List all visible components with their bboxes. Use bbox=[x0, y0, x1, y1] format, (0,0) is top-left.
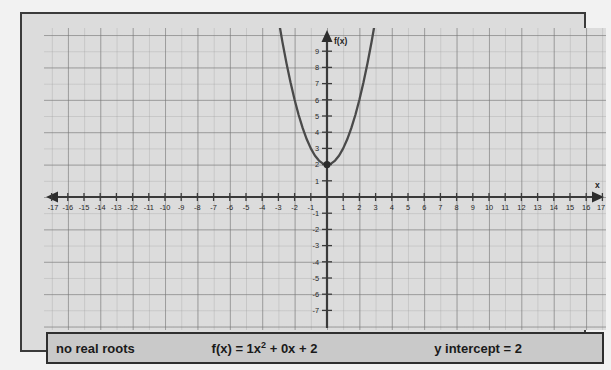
x-tick-label: 9 bbox=[471, 203, 475, 212]
y-tick-label: 6 bbox=[315, 96, 319, 105]
x-tick-label: 2 bbox=[357, 203, 361, 212]
x-tick-label: -10 bbox=[160, 203, 171, 212]
y-tick-label: -7 bbox=[312, 306, 319, 315]
y-axis bbox=[322, 30, 333, 328]
status-equation-label: f(x) = 1x2 + 0x + 2 bbox=[135, 340, 434, 356]
x-tick-label: 5 bbox=[406, 203, 410, 212]
x-axis-label: x bbox=[595, 180, 600, 190]
status-roots-label: no real roots bbox=[48, 341, 135, 356]
y-tick-label: 8 bbox=[315, 63, 319, 72]
graph-plot-area[interactable]: -17 -16 -15 -14 -13 -12 -11 -10 -9 -8 -7… bbox=[44, 28, 606, 330]
x-tick-label: -11 bbox=[144, 203, 154, 212]
x-tick-label: 17 bbox=[597, 203, 605, 212]
x-tick-label: 10 bbox=[485, 203, 493, 212]
status-bar: no real roots f(x) = 1x2 + 0x + 2 y inte… bbox=[46, 332, 604, 364]
x-tick-label: -16 bbox=[62, 203, 73, 212]
y-axis-label: f(x) bbox=[334, 36, 347, 46]
x-tick-label: 6 bbox=[422, 203, 426, 212]
x-tick-label: 11 bbox=[501, 203, 509, 212]
coordinate-plane-svg: -17 -16 -15 -14 -13 -12 -11 -10 -9 -8 -7… bbox=[44, 28, 606, 330]
x-tick-label: -6 bbox=[227, 203, 234, 212]
y-tick-label: -6 bbox=[312, 290, 319, 299]
x-tick-label: 4 bbox=[390, 203, 394, 212]
x-tick-label: -8 bbox=[194, 203, 201, 212]
equation-suffix: + 0x + 2 bbox=[266, 341, 317, 356]
y-tick-label: 4 bbox=[315, 128, 319, 137]
y-axis-top-arrow bbox=[322, 30, 333, 42]
y-tick-label: 5 bbox=[315, 112, 319, 121]
x-tick-label: -3 bbox=[275, 203, 282, 212]
x-tick-label: 15 bbox=[566, 203, 574, 212]
x-tick-label: 12 bbox=[517, 203, 525, 212]
y-tick-label: -4 bbox=[312, 258, 319, 267]
x-tick-label: 13 bbox=[533, 203, 541, 212]
x-tick-label: -14 bbox=[95, 203, 106, 212]
y-tick-label: -5 bbox=[312, 274, 319, 283]
y-tick-label: 1 bbox=[315, 177, 319, 186]
y-tick-label: 9 bbox=[315, 47, 319, 56]
x-tick-label: 16 bbox=[582, 203, 590, 212]
x-tick-label: -7 bbox=[210, 203, 217, 212]
y-tick-label: 2 bbox=[315, 160, 319, 169]
status-y-intercept-label: y intercept = 2 bbox=[434, 341, 602, 356]
x-tick-label: -17 bbox=[48, 203, 59, 212]
equation-prefix: f(x) = 1x bbox=[212, 341, 262, 356]
page-background: -17 -16 -15 -14 -13 -12 -11 -10 -9 -8 -7… bbox=[0, 0, 611, 370]
x-tick-label: -13 bbox=[111, 203, 122, 212]
y-tick-label: -1 bbox=[312, 209, 319, 218]
x-axis bbox=[46, 192, 604, 203]
vertex-point-marker[interactable] bbox=[323, 161, 330, 168]
y-tick-label: 7 bbox=[315, 79, 319, 88]
x-tick-label: 1 bbox=[341, 203, 345, 212]
x-tick-label: 7 bbox=[438, 203, 442, 212]
graph-applet-frame: -17 -16 -15 -14 -13 -12 -11 -10 -9 -8 -7… bbox=[20, 12, 586, 352]
x-tick-label: -15 bbox=[79, 203, 90, 212]
x-tick-label: -5 bbox=[243, 203, 250, 212]
x-tick-label: 14 bbox=[550, 203, 558, 212]
x-tick-label: -2 bbox=[291, 203, 298, 212]
y-tick-label: 3 bbox=[315, 144, 319, 153]
x-tick-label: -12 bbox=[127, 203, 138, 212]
x-tick-label: -4 bbox=[259, 203, 266, 212]
y-tick-label: -2 bbox=[312, 225, 319, 234]
x-tick-label: -9 bbox=[178, 203, 185, 212]
x-tick-label: 8 bbox=[455, 203, 459, 212]
y-axis-tick-labels: 9 8 7 6 5 4 3 2 1 -1 -2 -3 -4 -5 -6 -7 bbox=[312, 47, 319, 315]
x-tick-label: 3 bbox=[374, 203, 378, 212]
y-tick-label: -3 bbox=[312, 241, 319, 250]
